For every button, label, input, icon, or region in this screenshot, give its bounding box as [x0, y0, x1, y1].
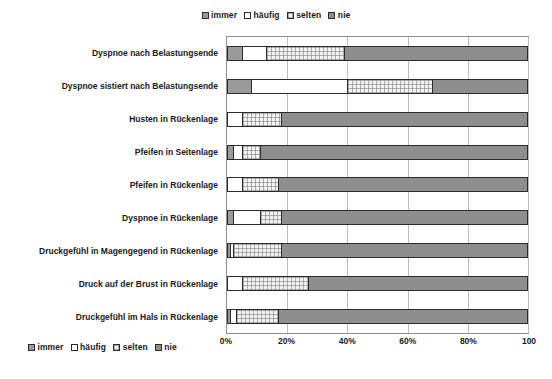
legend-item-selten-bottom: selten	[113, 342, 148, 352]
y-axis-label: Druckgefühl im Hals in Rückenlage	[0, 310, 222, 325]
legend-label-immer: immer	[211, 10, 237, 20]
bar-segment-immer[interactable]	[227, 79, 251, 94]
legend-swatch-immer-icon	[28, 344, 35, 351]
bar-segment-selten[interactable]	[260, 210, 281, 225]
legend-label-nie: nie	[338, 10, 351, 20]
bar-segment-selten[interactable]	[233, 243, 281, 258]
bar-segment-häufig[interactable]	[227, 177, 242, 192]
bar-segment-nie[interactable]	[281, 112, 528, 127]
bar-segment-häufig[interactable]	[233, 145, 242, 160]
bar-segment-nie[interactable]	[278, 309, 528, 324]
bar-segment-häufig[interactable]	[227, 112, 242, 127]
bar-segment-nie[interactable]	[281, 243, 528, 258]
bar-segment-nie[interactable]	[260, 145, 528, 160]
bar-row[interactable]	[227, 243, 528, 258]
bar-row[interactable]	[227, 276, 528, 291]
bar-segment-selten[interactable]	[347, 79, 431, 94]
bar-segment-häufig[interactable]	[251, 79, 347, 94]
legend-label-immer: immer	[38, 342, 64, 352]
bar-segment-selten[interactable]	[266, 46, 344, 61]
bar-segment-immer[interactable]	[227, 46, 242, 61]
bar-row[interactable]	[227, 79, 528, 94]
bar-row[interactable]	[227, 210, 528, 225]
legend-label-selten: selten	[123, 342, 148, 352]
legend-label-haeufig: häufig	[80, 342, 106, 352]
bar-row[interactable]	[227, 46, 528, 61]
y-axis-label: Dyspnoe sistiert nach Belastungsende	[0, 78, 222, 93]
legend-item-immer: immer	[202, 10, 238, 20]
y-axis-label: Dyspnoe nach Belastungsende	[0, 45, 222, 60]
legend-label-nie: nie	[164, 342, 177, 352]
gridline	[528, 37, 529, 333]
legend-swatch-immer-icon	[202, 12, 209, 19]
bar-segment-nie[interactable]	[281, 210, 528, 225]
bar-segment-nie[interactable]	[278, 177, 528, 192]
bar-segment-selten[interactable]	[242, 177, 278, 192]
bar-row[interactable]	[227, 309, 528, 324]
y-axis-label: Druck auf der Brust in Rückenlage	[0, 277, 222, 292]
legend-top: immer häufig selten nie	[0, 10, 552, 20]
y-axis-labels: Dyspnoe nach Belastungsende Dyspnoe sist…	[0, 36, 222, 334]
bar-segment-nie[interactable]	[308, 276, 528, 291]
legend-swatch-haeufig-icon	[71, 344, 78, 351]
legend-item-nie: nie	[328, 10, 350, 20]
y-axis-label: Husten in Rückenlage	[0, 111, 222, 126]
legend-label-selten: selten	[296, 10, 321, 20]
legend-item-haeufig-bottom: häufig	[71, 342, 107, 352]
bar-row[interactable]	[227, 145, 528, 160]
legend-swatch-selten-icon	[287, 12, 294, 19]
legend-item-haeufig: häufig	[244, 10, 280, 20]
bar-segment-nie[interactable]	[344, 46, 528, 61]
bar-row[interactable]	[227, 177, 528, 192]
legend-swatch-nie-icon	[155, 344, 162, 351]
chart-plot-area	[226, 36, 529, 334]
y-axis-label: Druckgefühl in Magengegend in Rückenlage	[0, 244, 222, 259]
bar-segment-häufig[interactable]	[227, 276, 242, 291]
legend-swatch-haeufig-icon	[244, 12, 251, 19]
y-axis-label: Pfeifen in Seitenlage	[0, 144, 222, 159]
bar-segment-häufig[interactable]	[233, 210, 260, 225]
legend-item-immer-bottom: immer	[28, 342, 64, 352]
legend-swatch-nie-icon	[328, 12, 335, 19]
legend-item-selten: selten	[287, 10, 322, 20]
legend-item-nie-bottom: nie	[155, 342, 177, 352]
legend-bottom: immer häufig selten nie	[0, 342, 552, 352]
y-axis-label: Dyspnoe in Rückenlage	[0, 211, 222, 226]
bar-segment-nie[interactable]	[432, 79, 528, 94]
bar-segment-selten[interactable]	[242, 145, 260, 160]
bar-rows	[227, 37, 528, 333]
bar-segment-häufig[interactable]	[242, 46, 266, 61]
legend-swatch-selten-icon	[113, 344, 120, 351]
y-axis-label: Pfeifen in Rückenlage	[0, 177, 222, 192]
bar-segment-selten[interactable]	[236, 309, 278, 324]
legend-label-haeufig: häufig	[254, 10, 280, 20]
bar-row[interactable]	[227, 112, 528, 127]
bar-segment-selten[interactable]	[242, 276, 308, 291]
bar-segment-selten[interactable]	[242, 112, 281, 127]
